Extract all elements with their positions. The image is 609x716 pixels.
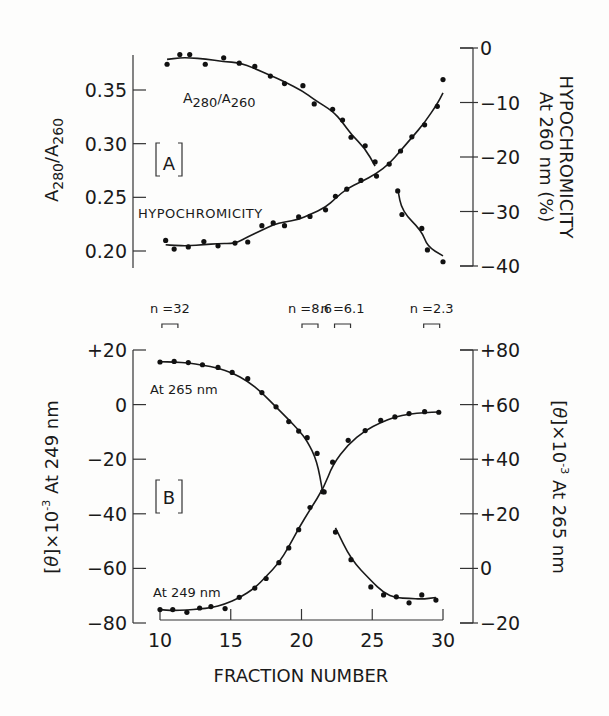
data-point — [333, 529, 338, 534]
theta-bracket-icon: [ — [41, 567, 62, 574]
svg-text:A: A — [163, 153, 176, 174]
tick-label: −60 — [87, 557, 127, 579]
data-point — [296, 527, 301, 532]
at-249nm-curve-label: At 249 nm — [153, 585, 221, 600]
data-point — [395, 188, 400, 193]
a280-a260-curve-label: A280/A260 — [183, 90, 256, 110]
panel-a-series — [163, 52, 446, 264]
data-point — [358, 178, 363, 183]
tick-label: 0 — [480, 37, 492, 59]
data-point — [215, 243, 220, 248]
data-point — [440, 77, 445, 82]
data-point — [440, 259, 445, 264]
data-point — [372, 159, 377, 164]
data-point — [273, 404, 278, 409]
data-point — [296, 428, 301, 433]
data-point — [406, 600, 411, 605]
data-point — [433, 597, 438, 602]
data-point — [394, 594, 399, 599]
data-point — [268, 73, 273, 78]
figure-canvas: 0.200.250.300.35 0−10−20−30−40 A280/A260… — [0, 0, 609, 716]
data-point — [157, 607, 162, 612]
n-value-label: n =32 — [150, 301, 190, 316]
x-tick-label: 10 — [148, 629, 172, 651]
data-point — [232, 241, 237, 246]
data-point — [422, 122, 427, 127]
panel-b-left-ticks: +200−20−40−60−80 — [87, 339, 146, 634]
x-axis-ticks: 1015202530 — [148, 609, 455, 651]
data-point — [252, 64, 257, 69]
tick-label: 0 — [115, 394, 127, 416]
tick-label: −40 — [87, 503, 127, 525]
svg-text:[θ]×10-3 At 265 nm: [θ]×10-3 At 265 nm — [549, 400, 571, 574]
fraction-bracket-icon — [302, 324, 318, 328]
data-point — [406, 411, 411, 416]
data-point — [172, 359, 177, 364]
panel-b-label: B — [156, 480, 182, 513]
x-tick-label: 20 — [289, 629, 313, 651]
tick-label: 0.20 — [85, 240, 127, 262]
tick-label: +40 — [480, 448, 520, 470]
data-point — [435, 104, 440, 109]
fit-curve — [335, 528, 435, 599]
panel-b-right-ticks: +80+60+40+200−20 — [460, 339, 520, 634]
data-point — [419, 226, 424, 231]
data-point — [422, 409, 427, 414]
data-point — [184, 610, 189, 615]
n-value-label: n =6.1 — [321, 301, 365, 316]
data-point — [200, 362, 205, 367]
data-point — [368, 584, 373, 589]
tick-label: +60 — [480, 394, 520, 416]
panel-a-right-axis-title-2: At 260 nm (%) — [536, 92, 557, 223]
fraction-bracket-icon — [424, 324, 440, 328]
data-point — [271, 220, 276, 225]
data-point — [307, 214, 312, 219]
data-point — [208, 604, 213, 609]
data-point — [381, 592, 386, 597]
data-point — [323, 207, 328, 212]
panel-a: 0.200.250.300.35 0−10−20−30−40 A280/A260… — [41, 37, 577, 277]
x-axis-title: FRACTION NUMBER — [214, 665, 389, 686]
at-265nm-curve-label: At 265 nm — [150, 382, 218, 397]
fit-curve — [398, 189, 443, 256]
data-point — [157, 359, 162, 364]
data-point — [392, 414, 397, 419]
data-point — [215, 365, 220, 370]
data-point — [296, 214, 301, 219]
hypochromicity-curve-label: HYPOCHROMICITY — [138, 206, 263, 221]
tick-label: −10 — [480, 92, 520, 114]
data-point — [340, 117, 345, 122]
data-point — [221, 55, 226, 60]
data-point — [425, 247, 430, 252]
data-point — [282, 223, 287, 228]
data-point — [398, 148, 403, 153]
panel-a-left-ticks: 0.200.250.300.35 — [85, 79, 146, 262]
data-point — [322, 489, 327, 494]
fraction-bracket-icon — [335, 324, 351, 328]
panel-b-series — [157, 359, 441, 615]
data-point — [177, 52, 182, 57]
tick-label: −80 — [87, 612, 127, 634]
panel-a-label: A — [156, 143, 182, 176]
data-point — [222, 606, 227, 611]
panel-a-right-ticks: 0−10−20−30−40 — [460, 37, 520, 277]
data-point — [348, 557, 353, 562]
fraction-bracket-icon — [162, 324, 178, 328]
data-point — [286, 545, 291, 550]
data-point — [305, 435, 310, 440]
data-point — [374, 173, 379, 178]
tick-label: +80 — [480, 339, 520, 361]
data-point — [237, 61, 242, 66]
tick-label: 0.35 — [85, 79, 127, 101]
data-point — [312, 101, 317, 106]
x-tick-label: 15 — [219, 629, 243, 651]
data-point — [330, 107, 335, 112]
data-point — [314, 451, 319, 456]
data-point — [363, 143, 368, 148]
svg-text:[θ]×10-3 At 249 nm: [θ]×10-3 At 249 nm — [40, 400, 62, 574]
data-point — [187, 52, 192, 57]
data-point — [259, 390, 264, 395]
data-point — [378, 418, 383, 423]
tick-label: 0.30 — [85, 133, 127, 155]
panel-a-left-axis-title: A280/A260 — [41, 118, 66, 202]
